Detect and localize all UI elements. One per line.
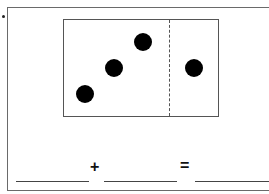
plus-sign: + <box>90 159 99 175</box>
answer-blank-1[interactable] <box>16 181 89 182</box>
dot-left-1 <box>76 85 94 103</box>
dashed-divider <box>169 20 170 116</box>
dot-left-2 <box>105 59 123 77</box>
equals-sign: = <box>180 158 189 174</box>
answer-blank-2[interactable] <box>104 181 177 182</box>
dot-left-3 <box>134 33 152 51</box>
dot-right-1 <box>185 59 203 77</box>
dot-box <box>63 19 219 117</box>
bullet-marker <box>2 15 5 18</box>
answer-blank-3[interactable] <box>195 181 269 182</box>
